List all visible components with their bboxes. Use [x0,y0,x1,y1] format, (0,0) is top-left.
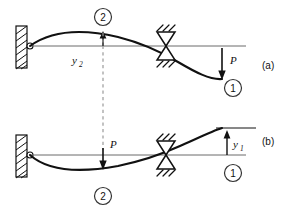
fixed-wall-support-a [16,26,33,69]
panel-b: 1 2 P y 1 (b) [16,128,274,205]
beam-deflection-figure: 2 1 y 2 P (a) [0,0,297,213]
load-arrow-b [99,148,106,170]
node-label-1-a: 1 [230,83,236,94]
load-label-b: P [109,138,117,150]
deflection-label-b: y [232,138,238,150]
panel-label-b: (b) [262,136,274,147]
node-label-1-b: 1 [230,168,236,179]
diagram-canvas: 2 1 y 2 P (a) [0,0,297,213]
panel-a: 2 1 y 2 P (a) [16,9,274,97]
node-label-2-b: 2 [100,191,106,202]
load-arrow-a [218,48,225,80]
deflection-subscript-b: 1 [240,144,244,153]
deflection-label-a: y [71,54,77,66]
node-marker-2-b: 2 [95,188,112,205]
deflected-beam-a [30,32,222,79]
panel-label-a: (a) [262,60,274,71]
node-marker-2-a: 2 [95,9,112,26]
deflection-subscript-a: 2 [79,60,83,69]
node-label-2-a: 2 [100,12,106,23]
deflection-arrow-b [224,130,231,155]
deflected-beam-b [30,128,222,170]
node-marker-1-b: 1 [225,165,242,182]
load-label-a: P [229,54,237,66]
node-marker-1-a: 1 [225,80,242,97]
